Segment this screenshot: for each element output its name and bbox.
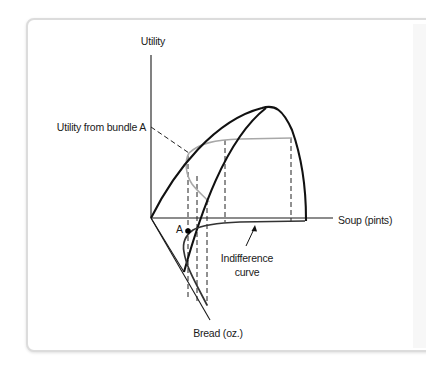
indifference-curve-label-line2: curve — [235, 266, 260, 278]
soup-axis-label: Soup (pints) — [338, 214, 392, 226]
utility-from-bundle-label: Utility from bundle A — [57, 121, 146, 133]
bread-axis-label: Bread (oz.) — [193, 327, 243, 339]
surface-edge-front — [151, 107, 306, 219]
page: Utility Soup (pints) Bread (oz.) Utility… — [0, 0, 426, 366]
utility-level-leader — [151, 127, 189, 153]
indifference-curve-label-line1: Indifference — [221, 252, 274, 264]
utility-axis-label: Utility — [141, 35, 166, 47]
indifference-arrow-head — [252, 225, 258, 232]
utility-contour — [189, 138, 292, 153]
utility-surface-diagram: Utility Soup (pints) Bread (oz.) Utility… — [0, 0, 426, 366]
point-a-label: A — [176, 223, 183, 235]
point-a-marker — [185, 228, 191, 234]
indifference-arrow-shaft — [246, 229, 254, 246]
